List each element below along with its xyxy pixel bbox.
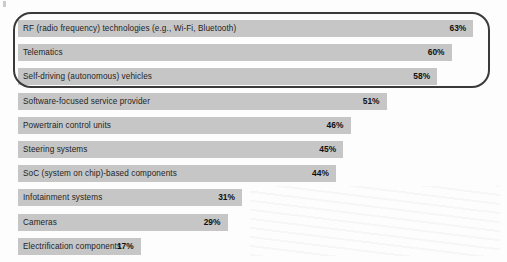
bar-fill [18, 44, 452, 61]
bar-category-label: Software-focused service provider [23, 93, 150, 110]
bar-category-label: SoC (system on chip)-based components [23, 165, 177, 182]
horizontal-bar-chart: RF (radio frequency) technologies (e.g.,… [0, 0, 507, 262]
table-row: Cameras29% [18, 214, 228, 231]
table-row: Self-driving (autonomous) vehicles58% [18, 68, 437, 85]
bar-value-label: 44% [312, 165, 329, 182]
table-row: RF (radio frequency) technologies (e.g.,… [18, 20, 473, 37]
bar-value-label: 45% [319, 141, 336, 158]
table-row: Powertrain control units46% [18, 117, 351, 134]
bar-value-label: 31% [218, 189, 235, 206]
table-row: Electrification components17% [18, 238, 218, 255]
bar-category-label: Telematics [23, 44, 63, 61]
bar-category-label: Steering systems [23, 141, 87, 158]
bar-value-label: 29% [204, 214, 221, 231]
bar-value-label: 51% [363, 93, 380, 110]
table-row: Telematics60% [18, 44, 452, 61]
bar-value-label: 46% [327, 117, 344, 134]
bar-value-label: 60% [428, 44, 445, 61]
bar-value-label: 17% [117, 238, 134, 255]
bar-category-label: Self-driving (autonomous) vehicles [23, 68, 152, 85]
table-row: Infotainment systems31% [18, 189, 242, 206]
bar-value-label: 63% [449, 20, 466, 37]
bar-category-label: RF (radio frequency) technologies (e.g.,… [23, 20, 236, 37]
table-row: SoC (system on chip)-based components44% [18, 165, 336, 182]
bar-rows-container: RF (radio frequency) technologies (e.g.,… [0, 0, 507, 262]
table-row: Steering systems45% [18, 141, 343, 158]
bar-category-label: Electrification components [23, 238, 121, 255]
table-row: Software-focused service provider51% [18, 93, 387, 110]
bar-value-label: 58% [413, 68, 430, 85]
bar-category-label: Infotainment systems [23, 189, 102, 206]
bar-category-label: Cameras [23, 214, 57, 231]
bar-category-label: Powertrain control units [23, 117, 111, 134]
